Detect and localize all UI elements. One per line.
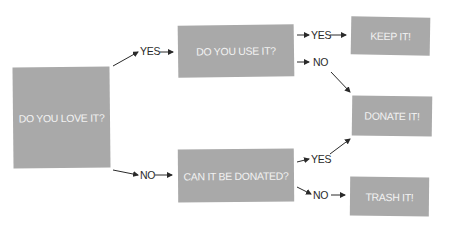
flowchart-canvas: DO YOU LOVE IT? DO YOU USE IT? CAN IT BE… <box>0 0 452 232</box>
arrow-donatable-to-yes <box>297 159 309 162</box>
node-label: CAN IT BE DONATED? <box>183 169 288 182</box>
node-can-it-be-donated: CAN IT BE DONATED? <box>178 148 294 202</box>
edge-label-use-no: NO <box>313 56 328 68</box>
arrow-yes-to-donate <box>330 139 350 154</box>
node-do-you-love-it: DO YOU LOVE IT? <box>12 66 110 168</box>
node-label: DO YOU USE IT? <box>196 44 276 57</box>
node-label: KEEP IT! <box>370 30 411 43</box>
edge-label-use-yes: YES <box>311 29 331 41</box>
node-keep-it: KEEP IT! <box>351 16 431 55</box>
node-label: DO YOU LOVE IT? <box>19 111 105 124</box>
node-label: DONATE IT! <box>364 110 419 123</box>
arrow-love-to-no <box>113 170 138 175</box>
node-donate-it: DONATE IT! <box>352 95 433 136</box>
arrow-love-to-yes <box>113 52 138 66</box>
node-trash-it: TRASH IT! <box>350 177 429 217</box>
edge-label-love-yes: YES <box>140 45 160 57</box>
edge-label-donatable-no: NO <box>313 189 328 201</box>
edge-label-love-no: NO <box>140 169 155 181</box>
arrow-no-to-donate <box>331 72 350 92</box>
node-do-you-use-it: DO YOU USE IT? <box>178 24 295 78</box>
edge-label-donatable-yes: YES <box>311 153 331 165</box>
arrow-donatable-to-no <box>297 187 311 194</box>
node-label: TRASH IT! <box>365 190 413 203</box>
